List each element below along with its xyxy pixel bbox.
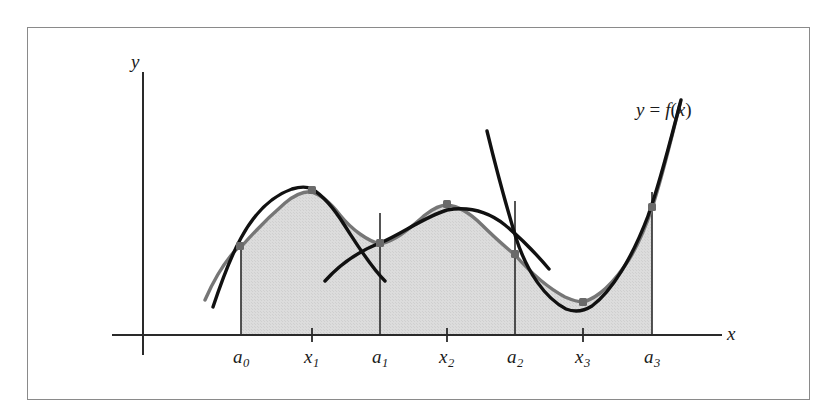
equation-equals: = xyxy=(644,99,665,120)
marker-a3 xyxy=(648,203,656,211)
tick-label-x1-sub: 1 xyxy=(312,356,319,370)
marker-a0 xyxy=(236,242,244,250)
equation-var: x xyxy=(677,99,685,120)
tick-label-a3: a3 xyxy=(644,347,660,369)
tick-label-x3: x3 xyxy=(575,347,590,369)
tick-label-x2-sub: 2 xyxy=(447,356,454,370)
tick-label-x3-sub: 3 xyxy=(583,356,590,370)
figure-page: y x y=f(x) a0 x1 a1 x2 a2 x3 a3 xyxy=(0,0,839,419)
equation-close-paren: ) xyxy=(685,99,691,120)
marker-x3 xyxy=(579,298,587,306)
tick-label-a1-base: a xyxy=(372,346,382,367)
tick-label-a1: a1 xyxy=(372,347,388,369)
marker-a1 xyxy=(376,239,384,247)
y-axis-label: y xyxy=(131,52,139,71)
function-equation-label: y=f(x) xyxy=(636,100,692,119)
tick-label-a2: a2 xyxy=(507,347,523,369)
marker-x2 xyxy=(443,200,451,208)
tick-label-a1-sub: 1 xyxy=(382,356,389,370)
shaded-area-under-curve xyxy=(241,192,652,335)
tick-label-a3-sub: 3 xyxy=(654,356,661,370)
tick-label-x1: x1 xyxy=(304,347,319,369)
tick-label-a2-sub: 2 xyxy=(517,356,524,370)
tick-label-a3-base: a xyxy=(644,346,654,367)
simpson-rule-diagram xyxy=(0,0,839,419)
tick-label-x2: x2 xyxy=(439,347,454,369)
marker-a2 xyxy=(511,250,519,258)
x-axis-label: x xyxy=(727,324,735,343)
tick-label-a0-base: a xyxy=(233,346,243,367)
marker-x1 xyxy=(308,186,316,194)
tick-label-a0-sub: 0 xyxy=(243,356,250,370)
tick-label-a0: a0 xyxy=(233,347,249,369)
tick-label-a2-base: a xyxy=(507,346,517,367)
